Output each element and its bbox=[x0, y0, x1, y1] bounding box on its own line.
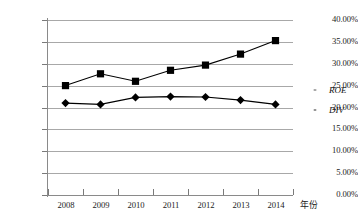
legend-marker-diamond-icon bbox=[303, 89, 327, 91]
data-point-roe[interactable] bbox=[166, 93, 174, 101]
data-point-div[interactable] bbox=[272, 37, 279, 44]
data-point-roe[interactable] bbox=[61, 99, 69, 107]
data-point-roe[interactable] bbox=[236, 96, 244, 104]
data-point-div[interactable] bbox=[167, 67, 174, 74]
legend-label-roe: ROE bbox=[329, 85, 347, 96]
data-point-roe[interactable] bbox=[271, 100, 279, 108]
data-point-div[interactable] bbox=[62, 82, 69, 89]
series-line-div bbox=[66, 41, 276, 86]
legend-item-roe[interactable]: ROE bbox=[303, 84, 358, 104]
line-chart: 0.00%5.00%10.00%15.00%20.00%25.00%30.00%… bbox=[0, 0, 358, 223]
legend-marker-square-icon bbox=[303, 109, 327, 111]
data-point-roe[interactable] bbox=[201, 93, 209, 101]
legend: ROE DIV bbox=[303, 84, 358, 124]
legend-item-div[interactable]: DIV bbox=[303, 104, 358, 124]
legend-label-div: DIV bbox=[329, 105, 344, 116]
data-point-div[interactable] bbox=[237, 51, 244, 58]
data-point-div[interactable] bbox=[97, 70, 104, 77]
data-point-roe[interactable] bbox=[96, 100, 104, 108]
data-point-roe[interactable] bbox=[131, 93, 139, 101]
data-point-div[interactable] bbox=[202, 62, 209, 69]
data-point-div[interactable] bbox=[132, 78, 139, 85]
